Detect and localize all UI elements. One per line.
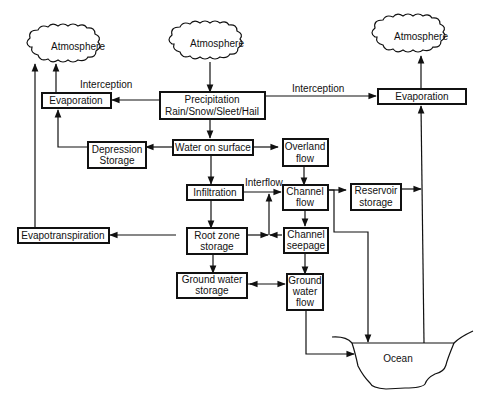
svg-text:Ground: Ground (288, 275, 321, 286)
cloud-label-center: Atmosphere (190, 38, 244, 49)
svg-text:Channel: Channel (287, 229, 324, 240)
box-infiltration: Infiltration (187, 185, 243, 200)
box-overland-flow: Overland flow (283, 139, 328, 166)
svg-text:storage: storage (195, 285, 229, 296)
svg-text:storage: storage (200, 241, 234, 252)
svg-text:storage: storage (359, 197, 393, 208)
box-depression-storage: Depression Storage (88, 142, 146, 168)
svg-text:Root zone: Root zone (194, 230, 240, 241)
svg-text:flow: flow (296, 153, 315, 164)
svg-text:Evapotranspiration: Evapotranspiration (21, 230, 104, 241)
svg-text:Depression: Depression (92, 144, 143, 155)
svg-text:seepage: seepage (287, 240, 326, 251)
svg-text:Overland: Overland (285, 141, 326, 152)
cloud-atmosphere-right: Atmosphere (372, 14, 448, 52)
svg-text:Infiltration: Infiltration (193, 187, 236, 198)
box-root-zone-storage: Root zone storage (187, 228, 247, 254)
svg-text:Storage: Storage (99, 155, 134, 166)
svg-text:flow: flow (296, 197, 315, 208)
box-ground-water-flow: Ground water flow (287, 274, 323, 310)
box-ground-water-storage: Ground water storage (177, 273, 247, 298)
svg-text:Channel: Channel (286, 186, 323, 197)
ocean-icon (352, 343, 454, 389)
edge-label-interception-left: Interception (80, 79, 132, 90)
cloud-atmosphere-left: Atmosphere (27, 24, 105, 62)
box-water-on-surface: Water on surface (173, 140, 253, 155)
svg-text:Evaporation: Evaporation (395, 91, 448, 102)
cloud-atmosphere-center: Atmosphere (169, 21, 244, 59)
box-channel-seepage: Channel seepage (284, 228, 328, 253)
ocean-label: Ocean (383, 353, 412, 364)
hydrologic-cycle-diagram: Atmosphere Atmosphere Atmosphere (0, 0, 489, 400)
svg-text:Ground water: Ground water (182, 274, 243, 285)
box-precipitation: Precipitation Rain/Snow/Sleet/Hail (160, 92, 265, 119)
svg-text:Evaporation: Evaporation (49, 95, 102, 106)
box-evapotranspiration: Evapotranspiration (18, 228, 109, 243)
svg-text:flow: flow (296, 297, 315, 308)
ocean-basin: Ocean (332, 331, 473, 389)
box-evaporation-left: Evaporation (42, 93, 111, 108)
box-reservoir-storage: Reservoir storage (351, 184, 401, 210)
svg-text:Precipitation: Precipitation (184, 94, 239, 105)
box-evaporation-right: Evaporation (378, 89, 466, 104)
svg-text:Rain/Snow/Sleet/Hail: Rain/Snow/Sleet/Hail (165, 106, 259, 117)
svg-text:water: water (292, 286, 318, 297)
cloud-label-left: Atmosphere (51, 41, 105, 52)
cloud-label-right: Atmosphere (394, 31, 448, 42)
box-channel-flow: Channel flow (283, 185, 328, 210)
edge-label-interception-right: Interception (292, 83, 344, 94)
svg-text:Water on surface: Water on surface (175, 142, 251, 153)
svg-text:Reservoir: Reservoir (355, 185, 398, 196)
edge-label-interflow: Interflow (245, 177, 284, 188)
